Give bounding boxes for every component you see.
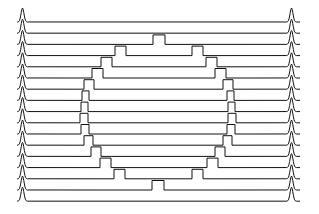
plot-background bbox=[0, 0, 319, 214]
stacked-trace-plot bbox=[0, 0, 319, 214]
pulse-trace-figure bbox=[0, 0, 319, 214]
